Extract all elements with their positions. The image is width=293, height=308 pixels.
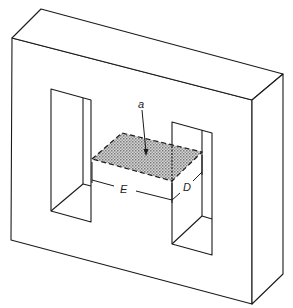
label-depth: D [183,181,191,193]
core-diagram: a E D [0,0,293,308]
left-window [51,89,91,222]
label-area: a [138,98,144,110]
core-block-drawing: a E D [0,0,293,308]
right-window [172,122,212,255]
label-length: E [120,183,128,195]
side-face [252,74,283,304]
